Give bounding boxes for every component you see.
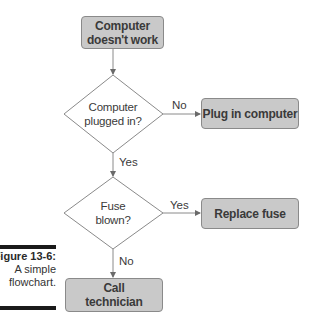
figure-caption-line2: flowchart. xyxy=(0,276,56,289)
decision-label-line1: Fuse xyxy=(83,199,143,213)
decision-label-line1: Computer xyxy=(73,100,153,114)
figure-number: Figure 13-6: xyxy=(0,250,56,263)
node-computer-doesnt-work: Computer doesn't work xyxy=(81,16,164,49)
edge-label-yes-fuse: Yes xyxy=(170,199,189,211)
edge-label-no-plugged: No xyxy=(172,99,187,111)
node-plug-in-computer: Plug in computer xyxy=(201,98,299,129)
decision-label-plugged: Computer plugged in? xyxy=(73,100,153,128)
flowchart-canvas: Computer doesn't work Computer plugged i… xyxy=(0,0,312,322)
node-label: Replace fuse xyxy=(214,207,286,221)
edge-label-no-fuse: No xyxy=(119,255,134,267)
node-label-line1: Call xyxy=(85,281,142,295)
decision-label-line2: blown? xyxy=(83,213,143,227)
node-label-line2: doesn't work xyxy=(87,33,158,47)
node-label-line1: Computer xyxy=(87,19,158,33)
node-label-line2: technician xyxy=(85,295,142,309)
caption-rule-top xyxy=(0,245,56,249)
node-replace-fuse: Replace fuse xyxy=(201,198,299,229)
edge-label-yes-plugged: Yes xyxy=(119,156,138,168)
decision-label-fuse: Fuse blown? xyxy=(83,199,143,227)
node-call-technician: Call technician xyxy=(65,278,163,312)
figure-caption: Figure 13-6: A simple flowchart. xyxy=(0,250,56,289)
caption-rule-bottom xyxy=(0,306,56,310)
figure-caption-line1: A simple xyxy=(0,263,56,276)
node-label: Plug in computer xyxy=(203,107,298,121)
decision-label-line2: plugged in? xyxy=(73,114,153,128)
